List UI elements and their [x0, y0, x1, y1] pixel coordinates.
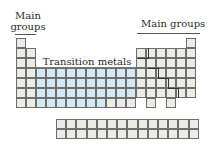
- transition-metal-cell: [116, 78, 126, 88]
- transition-metal-cell: [96, 78, 106, 88]
- main-group-cell: [26, 58, 36, 68]
- inner-transition-cell: [117, 119, 127, 129]
- main-group-cell: [166, 98, 176, 108]
- main-group-cell: [26, 78, 36, 88]
- transition-metal-cell: [56, 88, 66, 98]
- metalloid-staircase-line: [138, 58, 148, 59]
- transition-metal-cell: [56, 98, 66, 108]
- transition-metal-cell: [36, 68, 46, 78]
- inner-transition-cell: [148, 129, 158, 139]
- transition-metal-cell: [116, 88, 126, 98]
- main-group-cell: [146, 88, 156, 98]
- transition-metal-cell: [86, 78, 96, 88]
- main-group-cell: [16, 78, 26, 88]
- main-group-cell: [186, 38, 196, 48]
- main-group-cell: [166, 58, 176, 68]
- main-group-cell: [16, 88, 26, 98]
- inner-transition-cell: [148, 119, 158, 129]
- main-group-cell: [136, 88, 146, 98]
- inner-transition-cell: [178, 129, 188, 139]
- transition-metal-cell: [96, 98, 106, 108]
- main-group-cell: [176, 58, 186, 68]
- inner-transition-cell: [178, 119, 188, 129]
- main-group-cell: [26, 68, 36, 78]
- inner-transition-cell: [66, 119, 76, 129]
- main-group-cell: [146, 58, 156, 68]
- main-group-cell: [26, 88, 36, 98]
- main-group-cell: [176, 48, 186, 58]
- main-group-cell: [166, 48, 176, 58]
- left-label-rule: [15, 34, 36, 35]
- transition-metal-cell: [76, 88, 86, 98]
- transition-metal-cell: [66, 98, 76, 108]
- transition-metal-cell: [116, 68, 126, 78]
- transition-metal-cell: [46, 98, 56, 108]
- main-group-cell: [156, 48, 166, 58]
- inner-transition-cell: [107, 119, 117, 129]
- inner-transition-cell: [158, 129, 168, 139]
- main-group-cell: [156, 88, 166, 98]
- inner-transition-cell: [168, 129, 178, 139]
- inner-transition-cell: [56, 119, 66, 129]
- transition-metal-cell: [66, 68, 76, 78]
- main-group-cell: [116, 98, 126, 108]
- inner-transition-cell: [87, 129, 97, 139]
- main-group-cell: [146, 98, 156, 108]
- inner-transition-cell: [87, 119, 97, 129]
- transition-metal-cell: [46, 68, 56, 78]
- transition-top-rule: [36, 67, 138, 68]
- inner-transition-cell: [127, 119, 137, 129]
- main-group-cell: [16, 98, 26, 108]
- label-line-2: groups: [10, 21, 46, 32]
- main-group-cell: [156, 78, 166, 88]
- main-group-cell: [26, 98, 36, 108]
- transition-metal-cell: [106, 78, 116, 88]
- transition-metal-cell: [86, 98, 96, 108]
- main-group-cell: [16, 68, 26, 78]
- main-group-cell: [166, 68, 176, 78]
- transition-metal-cell: [96, 68, 106, 78]
- metalloid-staircase-line: [148, 48, 149, 59]
- inner-transition-cell: [76, 129, 86, 139]
- main-group-cell: [176, 78, 186, 88]
- transition-metal-cell: [66, 78, 76, 88]
- inner-transition-cell: [127, 129, 137, 139]
- main-group-cell: [126, 98, 136, 108]
- transition-metal-cell: [36, 88, 46, 98]
- transition-metal-cell: [36, 98, 46, 108]
- right-label-rule: [137, 33, 200, 34]
- inner-transition-cell: [168, 119, 178, 129]
- main-group-cell: [136, 68, 146, 78]
- main-group-cell: [186, 48, 196, 58]
- main-group-cell: [186, 58, 196, 68]
- transition-metal-cell: [86, 88, 96, 98]
- transition-metals-label: Transition metals: [36, 56, 138, 67]
- inner-transition-cell: [138, 129, 148, 139]
- metalloid-staircase-line: [148, 68, 158, 69]
- transition-metal-cell: [36, 78, 46, 88]
- main-group-cell: [166, 88, 176, 98]
- metalloid-staircase-line: [168, 78, 169, 88]
- inner-transition-cell: [158, 119, 168, 129]
- inner-transition-cell: [138, 119, 148, 129]
- main-group-cell: [176, 68, 186, 78]
- main-group-cell: [146, 68, 156, 78]
- main-group-cell: [16, 58, 26, 68]
- transition-metal-cell: [76, 98, 86, 108]
- transition-metal-cell: [56, 78, 66, 88]
- main-group-cell: [186, 88, 196, 98]
- inner-transition-cell: [76, 119, 86, 129]
- transition-metal-cell: [126, 88, 136, 98]
- transition-metal-cell: [126, 78, 136, 88]
- main-group-cell: [146, 78, 156, 88]
- metalloid-staircase-line: [178, 88, 179, 98]
- transition-metal-cell: [106, 88, 116, 98]
- transition-metal-cell: [76, 68, 86, 78]
- transition-metal-cell: [76, 78, 86, 88]
- main-group-cell: [106, 98, 116, 108]
- main-group-cell: [136, 78, 146, 88]
- main-group-cell: [186, 78, 196, 88]
- inner-transition-cell: [107, 129, 117, 139]
- transition-metal-cell: [46, 88, 56, 98]
- inner-transition-cell: [66, 129, 76, 139]
